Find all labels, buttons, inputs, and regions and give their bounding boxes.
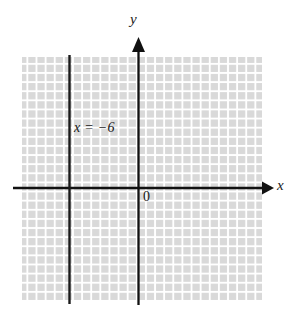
x-axis-label: x [277, 178, 284, 193]
grid-squares [22, 57, 262, 301]
coordinate-plane-svg [0, 0, 296, 313]
equation-label: x = −6 [74, 121, 115, 135]
grid-area [22, 57, 262, 301]
graph-figure: y x 0 x = −6 [0, 0, 296, 313]
y-axis-label: y [130, 12, 137, 27]
origin-label: 0 [143, 190, 150, 204]
x-axis-arrowhead [262, 182, 274, 195]
y-axis-arrowhead [132, 37, 145, 52]
